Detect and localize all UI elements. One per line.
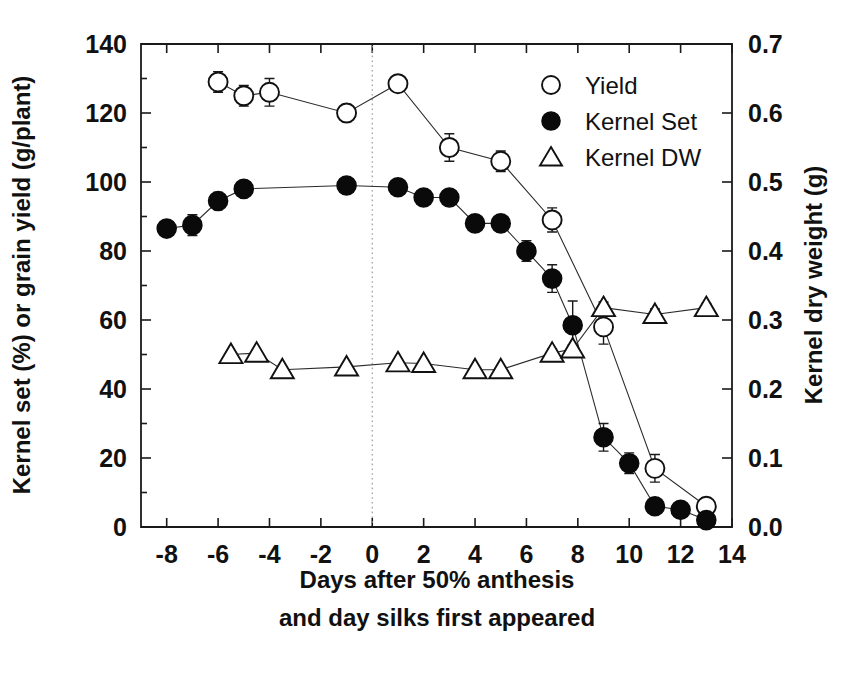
x-tick-label: 12 (667, 540, 695, 568)
legend-label: Kernel Set (585, 108, 697, 135)
marker-open-circle (440, 138, 459, 157)
marker-open-circle (594, 317, 613, 336)
chart-canvas: -8-6-4-202468101214 020406080100120140 0… (0, 0, 848, 678)
marker-filled-circle (183, 216, 202, 235)
x-axis-title-line1: Days after 50% anthesis (300, 566, 575, 593)
marker-open-circle (234, 86, 253, 105)
y-tick-label-left: 40 (99, 375, 127, 403)
y-tick-label-left: 20 (99, 444, 127, 472)
legend-marker-filled-circle (542, 112, 560, 130)
y-axis-right-title: Kernel dry weight (g) (800, 166, 827, 405)
marker-filled-circle (671, 500, 690, 519)
marker-filled-circle (466, 214, 485, 233)
marker-filled-circle (491, 214, 510, 233)
y-axis-left-title: Kernel set (%) or grain yield (g/plant) (8, 76, 35, 495)
figure-container: -8-6-4-202468101214 020406080100120140 0… (0, 0, 848, 678)
x-tick-label: -4 (258, 540, 280, 568)
marker-filled-circle (620, 454, 639, 473)
x-tick-label: -2 (310, 540, 332, 568)
y-tick-label-right: 0.5 (748, 168, 783, 196)
marker-filled-circle (234, 179, 253, 198)
marker-filled-circle (414, 188, 433, 207)
y-tick-label-right: 0.7 (748, 30, 783, 58)
marker-open-circle (645, 459, 664, 478)
x-tick-label: 4 (468, 540, 482, 568)
y-tick-label-right: 0.0 (748, 513, 783, 541)
x-tick-label: 2 (417, 540, 431, 568)
x-axis-title-line2: and day silks first appeared (279, 604, 595, 631)
x-tick-label: -6 (207, 540, 229, 568)
y-tick-label-right: 0.3 (748, 306, 783, 334)
y-tick-label-left: 140 (85, 30, 127, 58)
y-tick-label-left: 100 (85, 168, 127, 196)
marker-open-circle (543, 210, 562, 229)
marker-filled-circle (157, 219, 176, 238)
marker-filled-circle (594, 428, 613, 447)
marker-filled-circle (543, 269, 562, 288)
marker-open-circle (337, 104, 356, 123)
x-tick-label: 0 (365, 540, 379, 568)
y-tick-label-right: 0.1 (748, 444, 783, 472)
marker-filled-circle (388, 178, 407, 197)
marker-open-circle (209, 72, 228, 91)
marker-filled-circle (697, 511, 716, 530)
marker-open-circle (388, 74, 407, 93)
marker-filled-circle (645, 497, 664, 516)
x-tick-label: 14 (718, 540, 746, 568)
y-tick-label-right: 0.6 (748, 99, 783, 127)
legend-marker-open-circle (542, 76, 560, 94)
marker-filled-circle (337, 176, 356, 195)
marker-filled-circle (209, 191, 228, 210)
marker-filled-circle (440, 188, 459, 207)
marker-filled-circle (517, 242, 536, 261)
legend-label: Yield (585, 72, 637, 99)
marker-open-circle (491, 152, 510, 171)
y-tick-label-left: 120 (85, 99, 127, 127)
y-tick-label-right: 0.4 (748, 237, 783, 265)
y-tick-label-right: 0.2 (748, 375, 783, 403)
marker-open-circle (260, 83, 279, 102)
marker-filled-circle (563, 316, 582, 335)
legend-label: Kernel DW (585, 144, 701, 171)
x-tick-label: 10 (615, 540, 643, 568)
x-tick-label: 8 (571, 540, 585, 568)
x-tick-label: 6 (519, 540, 533, 568)
y-tick-label-left: 80 (99, 237, 127, 265)
x-tick-label: -8 (156, 540, 178, 568)
y-tick-label-left: 0 (113, 513, 127, 541)
y-tick-label-left: 60 (99, 306, 127, 334)
